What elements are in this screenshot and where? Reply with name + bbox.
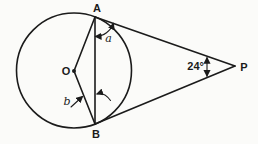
geometry-figure: A O B P a b 24° [0,0,258,144]
angle-b-curved-arrow-icon [97,93,111,100]
angle-a-label: a [105,32,112,45]
radius-ob-line [74,71,95,124]
angle-b-label: b [63,95,70,108]
point-p-label: P [240,61,247,73]
tangent-pa-line [95,17,235,66]
point-b-label: B [92,128,100,140]
angle-p-value-label: 24° [187,60,204,72]
tangent-pb-line [95,66,235,124]
circle-tangent-diagram: A O B P a b 24° [0,0,258,144]
point-a-label: A [93,2,101,14]
angle-b-leader-arrow-icon [71,97,83,108]
centre-dot-icon [72,69,76,73]
radius-oa-line [74,17,95,71]
centre-o-label: O [62,65,71,77]
